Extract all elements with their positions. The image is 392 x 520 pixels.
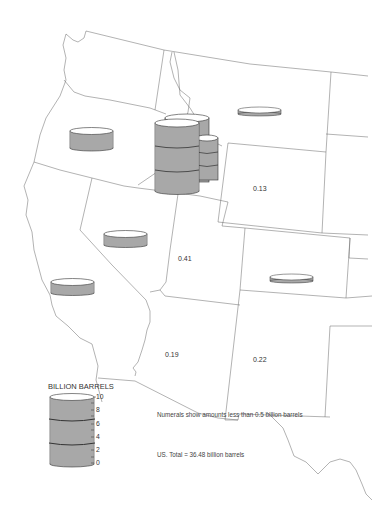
legend-tick-10: 10 — [96, 393, 104, 400]
barrel-idaho-right — [196, 135, 218, 180]
barrel-nevada — [104, 231, 147, 248]
label-wyoming: 0.13 — [253, 185, 267, 192]
total-note: US. Total = 36.48 billion barrels — [157, 451, 244, 458]
western-us-map — [0, 0, 392, 520]
legend-title: BILLION BARRELS — [48, 382, 114, 391]
barrel-montana — [238, 107, 281, 116]
barrel-oregon — [70, 128, 113, 152]
barrel-colorado — [270, 274, 313, 283]
legend-tick-2: 2 — [96, 446, 100, 453]
label-arizona: 0.19 — [165, 351, 179, 358]
label-new-mexico: 0.22 — [253, 356, 267, 363]
legend-tick-4: 4 — [96, 433, 100, 440]
numerals-note: Numerals show amounts less than 0.5 bill… — [157, 411, 303, 418]
label-utah: 0.41 — [178, 255, 192, 262]
barrel-california — [51, 279, 94, 296]
legend-barrel-icon — [49, 394, 96, 468]
barrel-idaho-front — [155, 119, 199, 195]
legend-tick-6: 6 — [96, 420, 100, 427]
legend-tick-8: 8 — [96, 406, 100, 413]
legend-tick-0: 0 — [96, 459, 100, 466]
